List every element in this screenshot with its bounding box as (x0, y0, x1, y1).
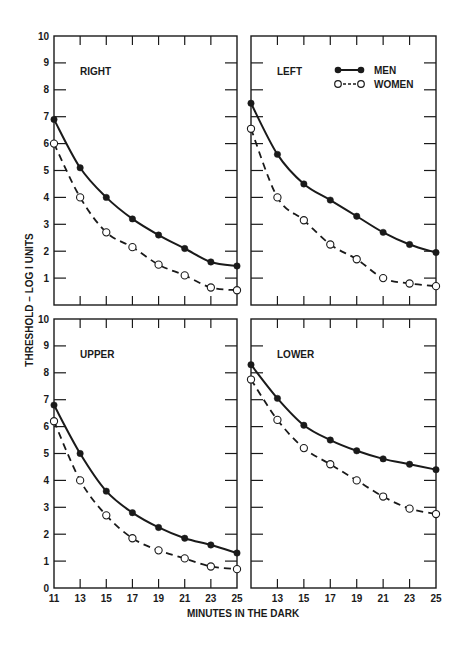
women-data-point (247, 376, 254, 383)
y-tick-label: 1 (43, 556, 49, 567)
y-tick-label: 1 (43, 273, 49, 284)
women-data-point (300, 217, 307, 224)
x-tick-label: 17 (127, 593, 139, 604)
men-data-point (182, 245, 188, 251)
y-tick-label: 0 (43, 583, 49, 594)
women-data-point (207, 284, 214, 291)
x-tick-label: 11 (49, 593, 60, 604)
men-series-line (54, 119, 237, 266)
men-data-point (51, 402, 57, 408)
men-data-point (234, 263, 240, 269)
panel-title: UPPER (80, 349, 115, 360)
men-data-point (433, 466, 439, 472)
women-data-point (247, 125, 254, 132)
x-tick-label: 23 (404, 593, 416, 604)
legend-men-label: MEN (374, 65, 396, 76)
panel-title: RIGHT (80, 66, 111, 77)
y-tick-label: 3 (43, 219, 49, 230)
panel-upper: 0123456789101113151719212325UPPER (38, 314, 243, 605)
x-tick-label: 15 (298, 593, 310, 604)
x-tick-label: 19 (351, 593, 363, 604)
women-data-point (327, 241, 334, 248)
x-tick-label: 13 (272, 593, 284, 604)
x-axis-title: MINUTES IN THE DARK (187, 608, 300, 619)
y-tick-label: 7 (43, 111, 49, 122)
women-data-point (327, 461, 334, 468)
panel-title: LEFT (277, 66, 302, 77)
men-data-point (77, 450, 83, 456)
panels-group: 12345678910RIGHTLEFT01234567891011131517… (38, 31, 442, 605)
x-tick-label: 23 (205, 593, 217, 604)
women-data-point (353, 256, 360, 263)
women-data-point (207, 563, 214, 570)
x-tick-label: 15 (101, 593, 113, 604)
y-tick-label: 9 (43, 57, 49, 68)
women-data-point (406, 505, 413, 512)
women-data-point (406, 280, 413, 287)
women-data-point (380, 275, 387, 282)
women-data-point (77, 477, 84, 484)
men-data-point (380, 229, 386, 235)
women-data-point (300, 445, 307, 452)
women-data-point (50, 418, 57, 425)
figure-canvas: 12345678910RIGHTLEFT01234567891011131517… (0, 0, 466, 649)
women-data-point (233, 566, 240, 573)
men-data-point (327, 197, 333, 203)
panel-lower: 13151719212325LOWER (247, 319, 442, 604)
y-axis-title: THRESHOLD – LOG I UNITS (24, 233, 35, 367)
women-data-point (274, 416, 281, 423)
men-data-point (248, 362, 254, 368)
y-tick-label: 3 (43, 502, 49, 513)
women-data-point (432, 283, 439, 290)
women-data-point (181, 272, 188, 279)
women-data-point (233, 287, 240, 294)
men-data-point (208, 542, 214, 548)
men-data-point (155, 524, 161, 530)
women-data-point (103, 512, 110, 519)
panel-right: 12345678910RIGHT (38, 31, 241, 306)
y-tick-label: 8 (43, 367, 49, 378)
men-data-point (103, 488, 109, 494)
y-tick-label: 5 (43, 448, 49, 459)
legend: MEN WOMEN (335, 65, 414, 90)
men-data-point (354, 213, 360, 219)
y-tick-label: 10 (38, 31, 50, 42)
y-tick-label: 4 (43, 475, 49, 486)
y-tick-label: 10 (38, 314, 50, 325)
men-data-point (51, 116, 57, 122)
men-data-point (406, 241, 412, 247)
men-data-point (129, 509, 135, 515)
x-tick-label: 21 (179, 593, 191, 604)
legend-men-marker-icon (335, 67, 342, 74)
men-data-point (103, 194, 109, 200)
legend-men-marker-icon (358, 67, 365, 74)
men-data-point (248, 100, 254, 106)
men-data-point (208, 259, 214, 265)
women-data-point (274, 194, 281, 201)
men-data-point (406, 461, 412, 467)
y-tick-label: 7 (43, 394, 49, 405)
women-data-point (155, 547, 162, 554)
women-data-point (380, 493, 387, 500)
men-data-point (182, 535, 188, 541)
men-data-point (301, 422, 307, 428)
women-data-point (353, 477, 360, 484)
men-data-point (301, 181, 307, 187)
x-tick-label: 17 (325, 593, 337, 604)
men-data-point (155, 232, 161, 238)
men-data-point (129, 216, 135, 222)
y-tick-label: 2 (43, 529, 49, 540)
men-data-point (234, 550, 240, 556)
x-tick-label: 19 (153, 593, 165, 604)
y-tick-label: 8 (43, 84, 49, 95)
men-data-point (274, 151, 280, 157)
women-data-point (129, 244, 136, 251)
panel-title: LOWER (277, 349, 315, 360)
y-tick-label: 6 (43, 138, 49, 149)
x-tick-label: 21 (378, 593, 390, 604)
x-tick-label: 25 (430, 593, 442, 604)
y-tick-label: 9 (43, 340, 49, 351)
men-data-point (274, 395, 280, 401)
men-data-point (354, 448, 360, 454)
x-tick-label: 25 (231, 593, 243, 604)
